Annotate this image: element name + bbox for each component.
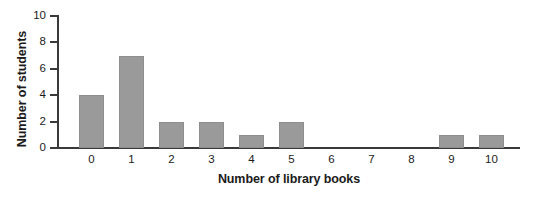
y-tick-label: 4: [0, 88, 46, 100]
x-tick-label: 6: [312, 152, 352, 166]
y-tick-label: 10: [0, 9, 46, 21]
bar: [439, 135, 464, 148]
x-axis-label: Number of library books: [57, 172, 521, 186]
y-tick-label: 6: [0, 62, 46, 74]
x-tick-label: 2: [152, 152, 192, 166]
bar: [279, 122, 304, 148]
bar: [119, 56, 144, 148]
x-tick-label: 0: [72, 152, 112, 166]
x-tick-label: 10: [472, 152, 512, 166]
bar: [159, 122, 184, 148]
x-tick-label: 9: [432, 152, 472, 166]
y-tick-label: 0: [0, 141, 46, 153]
x-tick-label: 5: [272, 152, 312, 166]
plot-area: [57, 16, 520, 148]
x-tick-label: 3: [192, 152, 232, 166]
y-tick-label: 8: [0, 35, 46, 47]
x-tick-label: 4: [232, 152, 272, 166]
bar: [479, 135, 504, 148]
x-tick-label: 7: [352, 152, 392, 166]
bar: [199, 122, 224, 148]
bar: [239, 135, 264, 148]
x-tick-label: 1: [112, 152, 152, 166]
y-tick-label: 2: [0, 115, 46, 127]
bar-chart: Number of students 0246810 012345678910 …: [0, 0, 536, 199]
bar: [79, 95, 104, 148]
x-tick-label: 8: [392, 152, 432, 166]
